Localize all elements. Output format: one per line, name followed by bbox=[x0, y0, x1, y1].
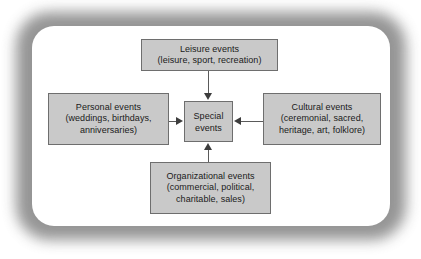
node-leisure-heading: Leisure events bbox=[180, 44, 239, 56]
node-cultural-detail-line2: heritage, art, folklore) bbox=[279, 125, 365, 137]
node-organizational-events: Organizational events (commercial, polit… bbox=[150, 162, 271, 214]
node-leisure-detail: (leisure, sport, recreation) bbox=[158, 55, 262, 67]
node-cultural-events: Cultural events (ceremonial, sacred, her… bbox=[263, 93, 381, 145]
node-organizational-heading: Organizational events bbox=[166, 171, 254, 183]
node-cultural-heading: Cultural events bbox=[292, 102, 353, 114]
arrowhead-right-icon bbox=[176, 117, 183, 125]
diagram-canvas: Leisure events (leisure, sport, recreati… bbox=[0, 0, 421, 259]
node-cultural-detail-line1: (ceremonial, sacred, bbox=[281, 113, 364, 125]
arrowhead-left-icon bbox=[234, 117, 241, 125]
connector-cultural-to-center bbox=[241, 121, 263, 122]
node-organizational-detail-line1: (commercial, political, bbox=[167, 182, 255, 194]
connector-organizational-to-center bbox=[208, 150, 209, 162]
node-leisure-events: Leisure events (leisure, sport, recreati… bbox=[141, 39, 278, 71]
node-personal-heading: Personal events bbox=[76, 102, 141, 114]
node-personal-events: Personal events (weddings, birthdays, an… bbox=[48, 93, 169, 145]
node-organizational-detail-line2: charitable, sales) bbox=[176, 194, 245, 206]
arrowhead-down-icon bbox=[204, 93, 212, 100]
node-special-line2: events bbox=[195, 122, 222, 134]
connector-personal-to-center bbox=[169, 121, 176, 122]
node-personal-detail-line1: (weddings, birthdays, bbox=[65, 113, 151, 125]
node-personal-detail-line2: anniversaries) bbox=[80, 125, 137, 137]
node-special-line1: Special bbox=[194, 110, 224, 122]
node-special-events: Special events bbox=[184, 101, 233, 142]
connector-leisure-to-center bbox=[208, 71, 209, 93]
arrowhead-up-icon bbox=[204, 143, 212, 150]
